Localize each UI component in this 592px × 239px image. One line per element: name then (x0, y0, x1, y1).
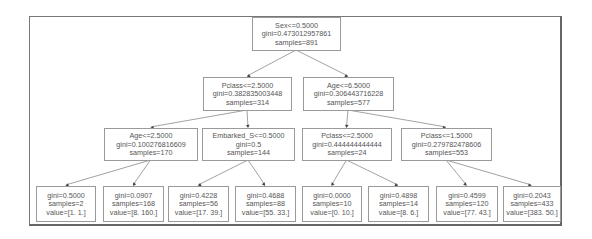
node-line-3: samples=170 (130, 148, 173, 157)
split-node: Sex<=0.5000gini=0.473012957861samples=89… (253, 18, 341, 51)
tree-edge (347, 110, 349, 127)
tree-edge (332, 160, 347, 185)
split-node: Age<=2.5000gini=0.100276816609samples=17… (105, 129, 198, 161)
node-line-3: samples=553 (425, 148, 468, 157)
leaf-node: gini=0.2043samples=433value=[383. 50.] (504, 187, 561, 222)
leaf-node: gini=0.4898samples=14value=[8. 6.] (369, 187, 429, 222)
tree-edge (247, 110, 248, 127)
tree-edge (247, 50, 296, 76)
tree-edge (446, 160, 532, 185)
tree-nodes: Sex<=0.5000gini=0.473012957861samples=89… (37, 18, 561, 222)
tree-edge (133, 160, 151, 185)
split-node: Pclass<=2.5000gini=0.382835003448samples… (204, 78, 292, 111)
leaf-node: gini=0.0907samples=168value=[8. 160.] (104, 187, 164, 222)
node-line-3: samples=891 (275, 38, 318, 47)
arrowhead-icon (246, 125, 250, 128)
node-line-3: samples=24 (328, 148, 367, 157)
tree-edge (151, 110, 248, 127)
split-node: Embarked_S<=0.5000gini=0.5samples=144 (203, 129, 295, 161)
tree-edge (347, 160, 399, 185)
node-line-3: samples=577 (327, 98, 370, 107)
split-node: Age<=6.5000gini=0.306443716228samples=57… (304, 78, 394, 111)
node-line-3: value=[77. 43.] (443, 208, 490, 217)
node-line-3: value=[8. 160.] (110, 208, 157, 217)
node-line-3: value=[383. 50.] (506, 208, 557, 217)
leaf-node: gini=0.4228samples=56value=[17. 39.] (169, 187, 229, 222)
leaf-node: gini=0.4688samples=88value=[55. 33.] (236, 187, 296, 222)
tree-edge (446, 160, 467, 185)
split-node: Pclass<=1.5000gini=0.279782478606samples… (402, 129, 492, 161)
node-line-3: value=[1. 1.] (46, 208, 85, 217)
leaf-node: gini=0.5000samples=2value=[1. 1.] (37, 187, 96, 222)
tree-edge (248, 160, 265, 185)
tree-edge (198, 160, 248, 185)
node-line-3: samples=144 (227, 148, 270, 157)
node-line-3: value=[17. 39.] (175, 208, 222, 217)
tree-edge (296, 50, 348, 76)
node-line-3: samples=314 (226, 98, 269, 107)
node-line-3: value=[55. 33.] (242, 208, 289, 217)
node-line-3: value=[0. 10.] (310, 208, 353, 217)
arrowhead-icon (345, 125, 349, 128)
node-line-3: value=[8. 6.] (379, 208, 418, 217)
decision-tree: Sex<=0.5000gini=0.473012957861samples=89… (0, 0, 592, 239)
tree-edge (348, 110, 446, 127)
tree-edges (66, 50, 532, 187)
tree-edge (66, 160, 151, 185)
leaf-node: gini=0.0000samples=10value=[0. 10.] (303, 187, 362, 222)
split-node: Pclass<=2.5000gini=0.444444444444samples… (303, 129, 392, 161)
leaf-node: gini=0.4599samples=120value=[77. 43.] (437, 187, 498, 222)
